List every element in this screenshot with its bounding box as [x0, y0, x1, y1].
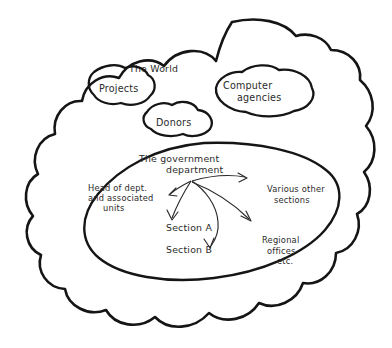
node-head-of-dept-line3: units	[103, 203, 124, 213]
node-head-of-dept-line1: Head of dept.	[88, 183, 147, 193]
bubble-donors[interactable]: Donors	[144, 102, 212, 136]
bubble-computer-agencies-label-line2: agencies	[237, 92, 281, 103]
node-regional-offices-line2: offices	[267, 246, 296, 256]
node-various-other-sections-line1: Various other	[267, 184, 325, 194]
node-regional-offices-line3: etc.	[277, 256, 293, 266]
node-head-of-dept-line2: and associated	[88, 193, 153, 203]
bubble-donors-label: Donors	[156, 117, 191, 128]
hand-drawn-diagram: The World Projects Donors Computer agenc…	[0, 0, 392, 348]
bubble-projects-label: Projects	[99, 83, 138, 94]
arrow-to-head-of-dept	[169, 181, 191, 196]
arrow-to-section-a	[167, 181, 191, 220]
diagram-canvas: The World Projects Donors Computer agenc…	[0, 0, 392, 348]
node-section-a-label: Section A	[166, 222, 212, 233]
node-various-other-sections-line2: sections	[274, 195, 310, 205]
the-world-label: The World	[128, 63, 178, 74]
node-section-b[interactable]: Section B	[166, 244, 212, 255]
node-head-of-dept[interactable]: Head of dept. and associated units	[88, 183, 153, 213]
node-regional-offices-line1: Regional	[262, 235, 299, 245]
government-department-label-line1: The government	[138, 153, 219, 164]
node-regional-offices[interactable]: Regional offices etc.	[262, 235, 299, 266]
node-various-other-sections[interactable]: Various other sections	[267, 184, 325, 205]
government-department-label-line2: department	[166, 164, 224, 175]
node-section-a[interactable]: Section A	[166, 222, 212, 233]
node-section-b-label: Section B	[166, 244, 212, 255]
bubble-projects[interactable]: Projects	[89, 65, 155, 105]
bubble-computer-agencies-label-line1: Computer	[223, 80, 272, 91]
bubble-computer-agencies[interactable]: Computer agencies	[216, 65, 313, 116]
arrow-to-section-b	[192, 181, 218, 248]
